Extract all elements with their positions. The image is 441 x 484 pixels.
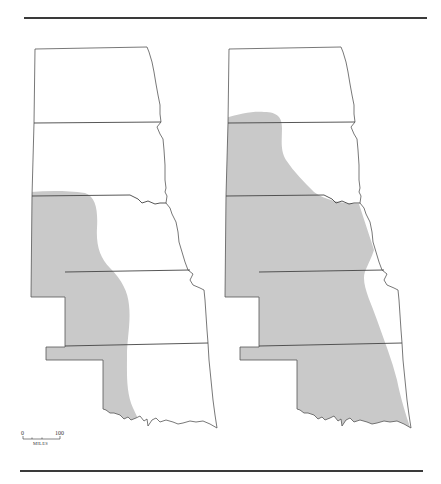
right-map (214, 47, 411, 440)
scale-bar-line (23, 436, 60, 439)
left-map-nd-sd-border (34, 122, 161, 123)
left-map (20, 47, 217, 440)
range-maps: 0 100 MILES (0, 0, 441, 484)
scale-bar: 0 100 MILES (21, 430, 64, 446)
scale-start-label: 0 (21, 430, 24, 436)
bottom-rule (20, 470, 423, 472)
left-map-shaded-range (20, 191, 140, 440)
scale-end-label: 100 (55, 430, 64, 436)
scale-unit-label: MILES (33, 441, 48, 446)
right-map-shaded-range (214, 112, 411, 440)
